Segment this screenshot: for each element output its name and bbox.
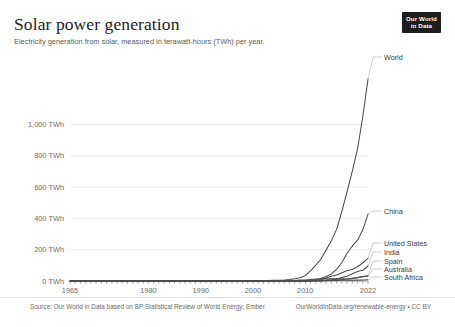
leader-line-united-states	[368, 243, 382, 258]
owid-logo-line2: in Data	[406, 22, 437, 29]
y-tick-label: 0 TWh	[42, 277, 64, 286]
footer-source: Source: Our World in Data based on BP St…	[30, 303, 265, 310]
y-tick-label: 800 TWh	[34, 151, 64, 160]
chart-header: Solar power generation Electricity gener…	[14, 14, 441, 47]
y-tick-label: 600 TWh	[34, 183, 64, 192]
y-tick-label: 1,000 TWh	[28, 120, 64, 129]
leader-line-south-africa	[368, 277, 382, 280]
series-label-china[interactable]: China	[384, 207, 403, 216]
page-title: Solar power generation	[14, 14, 441, 34]
x-tick-label: 2000	[245, 286, 261, 295]
series-end-labels: WorldChinaUnited StatesIndiaSpainAustral…	[384, 53, 428, 282]
chart-plot-area: 0 TWh200 TWh400 TWh600 TWh800 TWh1,000 T…	[0, 50, 455, 298]
y-axis-tick-labels: 0 TWh200 TWh400 TWh600 TWh800 TWh1,000 T…	[28, 120, 64, 285]
series-lines	[70, 79, 368, 281]
chart-page: Solar power generation Electricity gener…	[0, 0, 455, 327]
x-tick-label: 2010	[297, 286, 313, 295]
leader-line-spain	[368, 261, 382, 276]
series-line-china[interactable]	[70, 214, 368, 281]
series-label-south-africa[interactable]: South Africa	[384, 273, 423, 282]
gridlines	[70, 125, 368, 281]
series-label-world[interactable]: World	[384, 53, 403, 62]
series-label-united-states[interactable]: United States	[384, 239, 428, 248]
chart-subtitle: Electricity generation from solar, measu…	[14, 37, 441, 47]
series-label-india[interactable]: India	[384, 248, 400, 257]
line-chart-svg: 0 TWh200 TWh400 TWh600 TWh800 TWh1,000 T…	[0, 50, 455, 298]
legend-leader-lines	[368, 57, 382, 280]
x-axis-tick-labels: 196519801990200020102022	[62, 286, 376, 295]
x-tick-label: 1980	[140, 286, 156, 295]
chart-footer: Source: Our World in Data based on BP St…	[0, 297, 455, 319]
leader-line-india	[368, 252, 382, 266]
x-tick-label: 1990	[192, 286, 208, 295]
owid-logo-line1: Our World	[406, 15, 437, 22]
leader-line-china	[368, 211, 382, 214]
y-tick-label: 400 TWh	[34, 214, 64, 223]
owid-logo[interactable]: Our World in Data	[402, 12, 441, 33]
x-tick-label: 1965	[62, 286, 78, 295]
x-tick-label: 2022	[360, 286, 376, 295]
series-line-world[interactable]	[70, 79, 368, 281]
y-tick-label: 200 TWh	[34, 245, 64, 254]
leader-line-world	[368, 57, 382, 79]
footer-license[interactable]: OurWorldInData.org/renewable-energy • CC…	[296, 303, 431, 310]
